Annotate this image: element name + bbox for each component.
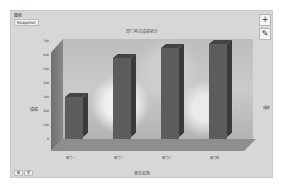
x-tick: 部门四	[199, 156, 229, 160]
chart-title: 部门考试成绩统计	[11, 28, 272, 34]
x-tick: 部门一	[55, 156, 85, 160]
x-axis-label: 单位名称	[11, 170, 272, 176]
view-toggle: 图表	[14, 170, 34, 176]
y-tick: 500	[37, 67, 49, 71]
x-tick: 部门二	[103, 156, 133, 160]
table-view-button[interactable]: 表	[24, 170, 33, 176]
y-tick: 0	[37, 137, 49, 141]
legend: 成绩	[263, 106, 269, 110]
bar-0[interactable]	[65, 97, 83, 139]
legend-entry[interactable]: 成绩	[263, 106, 269, 110]
left-wall	[51, 39, 63, 151]
bar-3[interactable]	[209, 44, 227, 139]
y-tick: 200	[37, 109, 49, 113]
bar-2[interactable]	[161, 48, 179, 139]
y-tick: 100	[37, 123, 49, 127]
y-tick: 300	[37, 95, 49, 99]
y-axis-label: 成绩	[30, 106, 38, 112]
chart-view-button[interactable]: 图	[14, 170, 23, 176]
chart-panel: 图表 Snapshot + ✎ 部门考试成绩统计 0 100 200 300 4…	[10, 10, 273, 178]
plus-icon: +	[262, 15, 269, 24]
y-tick: 600	[37, 53, 49, 57]
zoom-in-button[interactable]: +	[259, 14, 271, 26]
y-tick: 700	[37, 39, 49, 43]
y-tick: 400	[37, 81, 49, 85]
plot-area: 0 100 200 300 400 500 600 700	[51, 39, 256, 151]
panel-header: 图表 Snapshot	[14, 13, 39, 26]
bar-1[interactable]	[113, 58, 131, 139]
chart-floor	[51, 139, 256, 151]
panel-title: 图表	[14, 13, 39, 18]
snapshot-button[interactable]: Snapshot	[14, 19, 39, 26]
x-tick: 部门三	[151, 156, 181, 160]
